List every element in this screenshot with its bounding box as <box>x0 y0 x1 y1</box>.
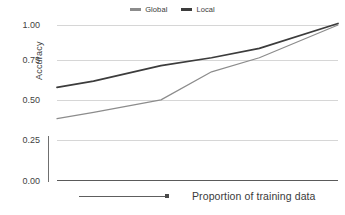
legend-label-local: Local <box>196 6 214 14</box>
series-lines <box>57 25 338 181</box>
chart-legend: Global Local <box>0 6 345 14</box>
legend-swatch-local <box>181 8 192 11</box>
legend-label-global: Global <box>145 6 167 14</box>
y-axis-tick-labels: 1.00 0.75 0.50 0.25 0.00 <box>2 0 40 215</box>
y-axis-title: Accuracy <box>34 41 44 80</box>
x-axis-arrow-icon <box>57 191 170 201</box>
legend-swatch-global <box>130 8 141 11</box>
x-axis-arrow-line <box>79 196 169 197</box>
y-tick-5: 0.00 <box>4 177 40 186</box>
plot-area <box>57 25 338 181</box>
y-tick-3: 0.50 <box>4 96 40 105</box>
y-tick-4: 0.25 <box>4 136 40 145</box>
y-axis-line <box>48 136 49 182</box>
x-axis-title: Proportion of training data <box>192 190 316 202</box>
y-tick-1: 1.00 <box>4 21 40 30</box>
x-axis-arrow-head <box>165 194 169 198</box>
x-axis-caption-row: Proportion of training data <box>57 190 345 202</box>
line-series-global <box>57 25 338 119</box>
legend-item-global: Global <box>130 6 167 14</box>
chart-figure: Global Local 1.00 0.75 0.50 0.25 0.00 Ac… <box>0 0 345 215</box>
legend-item-local: Local <box>181 6 214 14</box>
line-series-local <box>57 23 338 87</box>
